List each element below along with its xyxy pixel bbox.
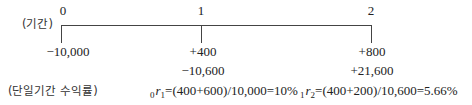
r1-pre-subscript: 0: [150, 90, 155, 100]
r2-pre-subscript: 1: [300, 90, 305, 100]
timeline-axis: [61, 25, 372, 26]
r2-expression: =(400+200)/10,600=5.66%: [315, 83, 458, 98]
tick-2: [371, 25, 372, 43]
cash-flow-2: +800: [359, 45, 386, 59]
period-0-label: 0: [60, 4, 67, 18]
cash-flow-0: −10,000: [46, 45, 89, 59]
returns-label: (단일기간 수익률): [8, 84, 98, 98]
period-1-label: 1: [198, 4, 205, 18]
period-2-label: 2: [368, 4, 375, 18]
r1-expression: =(400+600)/10,000=10%: [165, 83, 298, 98]
cash-flow-1-reinvest: −10,600: [181, 64, 224, 78]
cash-flow-2-terminal: +21,600: [350, 64, 393, 78]
return-r2-formula: 1r2=(400+200)/10,600=5.66%: [300, 84, 458, 99]
return-r1-formula: 0r1=(400+600)/10,000=10%: [150, 84, 298, 99]
cash-flow-1: +400: [190, 45, 217, 59]
tick-0: [61, 25, 62, 43]
period-label: (기간): [22, 17, 53, 31]
tick-1: [201, 25, 202, 43]
